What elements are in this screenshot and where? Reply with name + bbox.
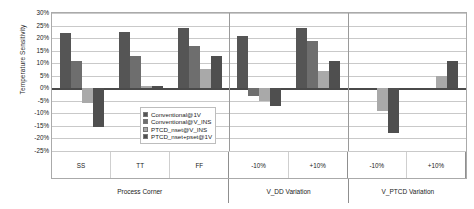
bar[interactable] [211, 56, 222, 89]
bar[interactable] [270, 88, 281, 106]
plot-area [51, 12, 467, 152]
category-label: SS [52, 152, 111, 178]
section-separator [348, 13, 349, 151]
bar-slot [270, 13, 281, 151]
bar-slot [366, 13, 377, 151]
category-label: -10% [229, 152, 288, 178]
bar-slot [71, 13, 82, 151]
bar-group-bars [407, 13, 466, 151]
bar[interactable] [71, 61, 82, 89]
bar[interactable] [93, 88, 104, 127]
section-label: Process Corner [51, 179, 229, 203]
y-tick-label: 10% [36, 60, 49, 66]
category-label: -10% [348, 152, 407, 178]
bar-group-bars [52, 13, 111, 151]
y-tick-label: -25% [34, 148, 49, 154]
bar[interactable] [296, 28, 307, 88]
bar-slot [296, 13, 307, 151]
bar-slot [318, 13, 329, 151]
bar[interactable] [82, 88, 93, 103]
temperature-sensitivity-bar-chart: Temperature Sensitivity 30%25%20%15%10%5… [0, 0, 474, 209]
bar-slot [82, 13, 93, 151]
category-label: +10% [289, 152, 348, 178]
bar[interactable] [329, 61, 340, 89]
bar[interactable] [237, 36, 248, 89]
bar-group [348, 13, 407, 151]
section-label: V_PTCD Variation [349, 179, 467, 203]
bar-group [229, 13, 288, 151]
section-axis: Process CornerV_DD VariationV_PTCD Varia… [51, 179, 467, 203]
legend-item: PTCD_nset@V_INS [143, 126, 212, 133]
bar-slot [414, 13, 425, 151]
bar[interactable] [60, 33, 71, 88]
category-label: TT [111, 152, 170, 178]
legend-label: PTCD_nset@V_INS [151, 126, 207, 133]
y-tick-label: -20% [34, 135, 49, 141]
bar-slot [248, 13, 259, 151]
bar[interactable] [307, 41, 318, 89]
y-tick-label: 0% [40, 85, 49, 91]
bar[interactable] [178, 28, 189, 88]
y-tick-label: -15% [34, 123, 49, 129]
legend-swatch-ptcd-nset-vins [143, 127, 148, 132]
bar-slot [119, 13, 130, 151]
category-label: FF [170, 152, 229, 178]
legend-label: Conventional@V_INS [151, 118, 211, 125]
bar[interactable] [259, 88, 270, 101]
y-axis-tick-labels: 30%25%20%15%10%5%0%-5%-10%-15%-20%-25% [22, 12, 49, 152]
category-label: +10% [407, 152, 466, 178]
bar[interactable] [119, 32, 130, 88]
bar[interactable] [318, 71, 329, 89]
bar-group [52, 13, 111, 151]
bar-slot [436, 13, 447, 151]
bar-slot [93, 13, 104, 151]
y-tick-label: 15% [36, 47, 49, 53]
category-axis: SSTTFF-10%+10%-10%+10% [51, 152, 467, 179]
bar-slot [60, 13, 71, 151]
bar-slot [447, 13, 458, 151]
legend-swatch-ptcd-nset-pset-1v [143, 134, 148, 139]
bar[interactable] [248, 88, 259, 96]
bar-slot [388, 13, 399, 151]
legend-swatch-conventional-vins [143, 119, 148, 124]
bar-slot [355, 13, 366, 151]
legend-swatch-conventional-1v [143, 112, 148, 117]
y-tick-label: -10% [34, 110, 49, 116]
chart-legend: Conventional@1V Conventional@V_INS PTCD_… [140, 107, 216, 144]
bar[interactable] [388, 88, 399, 133]
bar-group [289, 13, 348, 151]
bar-slot [377, 13, 388, 151]
bar[interactable] [152, 86, 163, 88]
bar[interactable] [377, 88, 388, 111]
bar-group [407, 13, 466, 151]
legend-item: Conventional@V_INS [143, 118, 212, 125]
bar[interactable] [189, 46, 200, 89]
bar-group-bars [229, 13, 288, 151]
bar-slot [307, 13, 318, 151]
bar[interactable] [200, 69, 211, 88]
bar-slot [259, 13, 270, 151]
bar-slot [329, 13, 340, 151]
bar[interactable] [436, 76, 447, 89]
bar[interactable] [447, 61, 458, 89]
y-tick-label: 25% [36, 22, 49, 28]
bar-slot [237, 13, 248, 151]
legend-item: Conventional@1V [143, 111, 212, 118]
y-tick-label: 20% [36, 35, 49, 41]
y-tick-label: 30% [36, 10, 49, 16]
legend-label: Conventional@1V [151, 111, 201, 118]
bar[interactable] [130, 56, 141, 89]
y-tick-label: 5% [40, 73, 49, 79]
legend-label: PTCD_nset+pset@1V [151, 133, 212, 140]
section-separator [229, 13, 230, 151]
bar[interactable] [141, 86, 152, 89]
bar-slot [425, 13, 436, 151]
legend-item: PTCD_nset+pset@1V [143, 133, 212, 140]
bar-group-bars [289, 13, 348, 151]
bar-groups [52, 13, 466, 151]
section-label: V_DD Variation [229, 179, 348, 203]
bar-group-bars [348, 13, 407, 151]
y-tick-label: -5% [38, 98, 49, 104]
